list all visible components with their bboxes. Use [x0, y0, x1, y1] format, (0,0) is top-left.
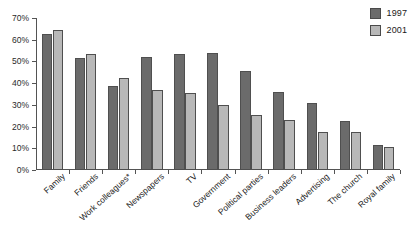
bar-2001	[251, 115, 262, 170]
x-axis-tick	[400, 170, 401, 174]
bar-1997	[373, 145, 384, 170]
y-axis-tick-label: 40%	[12, 79, 29, 88]
y-axis-tick-label: 70%	[12, 14, 29, 23]
bar-group	[69, 18, 102, 170]
bar-2001	[384, 147, 395, 170]
bar-1997	[340, 121, 351, 170]
category-label: Family	[42, 172, 66, 195]
bar-group	[334, 18, 367, 170]
bar-1997	[108, 86, 119, 170]
bar-2001	[86, 54, 97, 170]
category-axis-labels: FamilyFriendsWork colleagues*NewspapersT…	[36, 172, 400, 242]
bar-group	[301, 18, 334, 170]
category-label: Friends	[73, 172, 100, 197]
bar-2001	[351, 132, 362, 170]
bar-1997	[273, 92, 284, 170]
bar-group	[168, 18, 201, 170]
bar-2001	[119, 78, 130, 170]
y-axis-tick-label: 50%	[12, 57, 29, 66]
category-label: Advertising	[294, 172, 331, 206]
y-axis-tick-label: 60%	[12, 35, 29, 44]
bar-1997	[141, 57, 152, 170]
y-axis-tick-label: 20%	[12, 122, 29, 131]
bar-group	[268, 18, 301, 170]
bar-group	[235, 18, 268, 170]
bar-2001	[284, 120, 295, 170]
plot-area: 0%10%20%30%40%50%60%70%	[36, 18, 400, 170]
bar-1997	[174, 54, 185, 170]
legend-label-1997: 1997	[387, 9, 407, 18]
bar-1997	[240, 71, 251, 170]
bar-1997	[75, 58, 86, 170]
bar-1997	[42, 34, 53, 170]
bar-group	[201, 18, 234, 170]
bar-2001	[152, 90, 163, 170]
bar-chart: 1997 2001 0%10%20%30%40%50%60%70% Family…	[0, 0, 413, 242]
y-axis-tick	[32, 170, 36, 171]
bar-groups	[36, 18, 400, 170]
bar-2001	[53, 30, 64, 170]
bar-1997	[207, 53, 218, 170]
y-axis-tick-label: 30%	[12, 101, 29, 110]
category-label: TV	[185, 172, 199, 186]
bar-2001	[318, 132, 329, 170]
bar-2001	[218, 105, 229, 170]
bar-group	[102, 18, 135, 170]
bar-2001	[185, 93, 196, 170]
bar-group	[36, 18, 69, 170]
bar-group	[135, 18, 168, 170]
bar-1997	[307, 103, 318, 170]
bar-group	[367, 18, 400, 170]
y-axis-tick-label: 10%	[12, 144, 29, 153]
y-axis-tick-label: 0%	[17, 166, 29, 175]
